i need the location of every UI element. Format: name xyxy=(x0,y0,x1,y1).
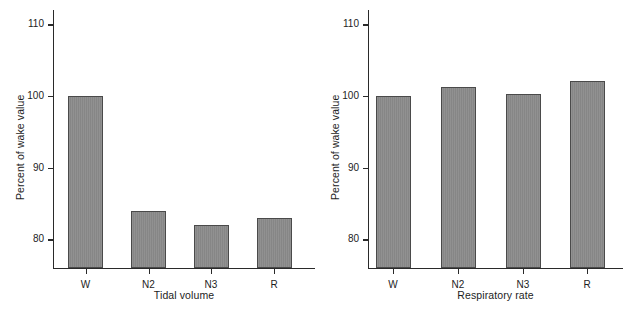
bar xyxy=(376,96,411,268)
x-axis-tick xyxy=(211,269,212,274)
y-axis-tick-label: 80 xyxy=(7,233,44,244)
x-axis-title: Tidal volume xyxy=(53,289,315,301)
y-axis-tick-label: 110 xyxy=(7,18,44,29)
y-axis-title: Percent of wake value xyxy=(14,95,26,200)
bar xyxy=(257,218,292,268)
chart-panel-respiratory-rate: Percent of wake value 8090100110WN2N3R R… xyxy=(315,0,630,309)
y-axis-tick xyxy=(363,239,368,240)
y-axis-tick xyxy=(48,168,53,169)
x-axis-tick xyxy=(274,269,275,274)
figure-two-panel-bar-charts: Percent of wake value 8090100110WN2N3R T… xyxy=(0,0,630,309)
y-axis-tick-label: 100 xyxy=(322,90,359,101)
x-axis-line xyxy=(368,268,623,269)
y-axis-line xyxy=(368,10,369,268)
chart-panel-tidal-volume: Percent of wake value 8090100110WN2N3R T… xyxy=(0,0,315,309)
y-axis-title: Percent of wake value xyxy=(329,95,341,200)
y-axis-tick xyxy=(363,24,368,25)
y-axis-tick-label: 90 xyxy=(7,162,44,173)
bar xyxy=(194,225,229,268)
y-axis-tick-label: 110 xyxy=(322,18,359,29)
y-axis-tick xyxy=(48,96,53,97)
y-axis-tick xyxy=(363,168,368,169)
bar xyxy=(68,96,103,268)
x-axis-tick xyxy=(393,269,394,274)
y-axis-tick-label: 100 xyxy=(7,90,44,101)
bar xyxy=(441,87,476,268)
x-axis-tick xyxy=(587,269,588,274)
bar xyxy=(506,94,541,268)
x-axis-line xyxy=(53,268,315,269)
y-axis-tick xyxy=(363,96,368,97)
x-axis-tick xyxy=(86,269,87,274)
x-axis-tick xyxy=(458,269,459,274)
y-axis-line xyxy=(53,10,54,268)
x-axis-tick xyxy=(149,269,150,274)
bar xyxy=(131,211,166,268)
y-axis-tick-label: 90 xyxy=(322,162,359,173)
x-axis-title: Respiratory rate xyxy=(368,289,623,301)
bar xyxy=(570,81,605,268)
y-axis-tick-label: 80 xyxy=(322,233,359,244)
y-axis-tick xyxy=(48,24,53,25)
y-axis-tick xyxy=(48,239,53,240)
x-axis-tick xyxy=(523,269,524,274)
